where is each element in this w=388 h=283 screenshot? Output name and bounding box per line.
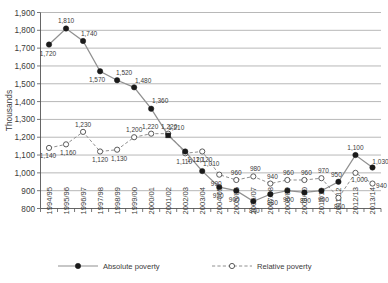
data-label-absolute-poverty: 1,480	[135, 77, 152, 84]
data-label-relative-poverty: 1,140	[40, 152, 57, 159]
data-label-absolute-poverty: 890	[300, 197, 311, 204]
data-label-absolute-poverty: 920	[213, 192, 224, 199]
data-point-relative-poverty	[370, 181, 375, 186]
data-label-absolute-poverty: 1,360	[152, 97, 169, 104]
y-axis-tick-label: 1,300	[15, 115, 36, 124]
poverty-line-chart: 8009001,0001,1001,2001,3001,4001,5001,60…	[0, 0, 388, 283]
data-point-absolute-poverty	[336, 179, 341, 184]
data-point-absolute-poverty	[63, 26, 68, 31]
data-label-relative-poverty: 1,160	[60, 149, 77, 156]
data-point-relative-poverty	[97, 149, 102, 154]
y-axis-tick-label: 800	[21, 205, 35, 214]
data-label-relative-poverty: 1,120	[92, 156, 109, 163]
x-axis-tick-label: 1997/98	[96, 187, 105, 214]
data-point-relative-poverty	[149, 131, 154, 136]
data-label-relative-poverty: 1,120	[196, 156, 213, 163]
data-label-relative-poverty: 980	[250, 165, 261, 172]
data-point-absolute-poverty	[353, 152, 358, 157]
data-label-relative-poverty: 970	[318, 167, 329, 174]
y-axis-tick-label: 1,900	[15, 9, 36, 18]
data-point-absolute-poverty	[234, 188, 239, 193]
legend-marker-absolute-poverty	[75, 263, 80, 268]
data-label-relative-poverty: 990	[211, 180, 222, 187]
data-point-relative-poverty	[268, 181, 273, 186]
x-axis-tick-label: 1995/96	[62, 187, 71, 214]
data-point-absolute-poverty	[148, 106, 153, 111]
data-point-relative-poverty	[132, 135, 137, 140]
x-axis-tick-label: 1998/99	[113, 187, 122, 214]
data-point-absolute-poverty	[131, 85, 136, 90]
y-axis-tick-label: 1,100	[15, 151, 36, 160]
data-point-relative-poverty	[302, 177, 307, 182]
data-label-relative-poverty: 1,000	[351, 176, 368, 183]
data-point-absolute-poverty	[114, 78, 119, 83]
data-label-absolute-poverty: 1,740	[81, 30, 98, 37]
data-point-relative-poverty	[353, 170, 358, 175]
data-point-relative-poverty	[115, 147, 120, 152]
x-axis-tick-label: 2012/13	[351, 187, 360, 214]
x-axis-tick-label: 2003/04	[198, 187, 207, 214]
data-label-absolute-poverty: 1,030	[372, 158, 388, 165]
data-label-relative-poverty: 960	[283, 169, 294, 176]
data-point-absolute-poverty	[370, 165, 375, 170]
data-label-absolute-poverty: 1,720	[40, 50, 57, 57]
data-point-absolute-poverty	[319, 188, 324, 193]
data-point-absolute-poverty	[183, 149, 188, 154]
data-point-relative-poverty	[46, 145, 51, 150]
data-label-relative-poverty: 960	[301, 169, 312, 176]
x-axis-tick-label: 1996/97	[79, 187, 88, 214]
data-label-absolute-poverty: 1,520	[116, 69, 133, 76]
chart-container: 8009001,0001,1001,2001,3001,4001,5001,60…	[0, 0, 388, 283]
data-label-absolute-poverty: 950	[331, 171, 342, 178]
data-label-absolute-poverty: 1,570	[89, 76, 106, 83]
data-label-relative-poverty: 1,230	[75, 121, 92, 128]
data-point-relative-poverty	[217, 172, 222, 177]
y-axis-tick-label: 1,700	[15, 44, 36, 53]
x-axis-tick-label: 1994/95	[45, 187, 54, 214]
legend-label-relative-poverty: Relative poverty	[257, 262, 312, 271]
data-label-relative-poverty: 940	[376, 182, 387, 189]
x-axis-tick-label: 2001/02	[164, 187, 173, 214]
data-label-relative-poverty: 1,220	[142, 123, 159, 130]
data-label-relative-poverty: 1,110	[176, 158, 192, 165]
data-label-absolute-poverty: 1,100	[347, 144, 364, 151]
y-axis-tick-label: 1,500	[15, 80, 36, 89]
data-label-relative-poverty: 940	[267, 173, 278, 180]
data-label-relative-poverty: 960	[231, 169, 242, 176]
data-point-absolute-poverty	[200, 168, 205, 173]
legend-label-absolute-poverty: Absolute poverty	[103, 262, 160, 271]
data-point-absolute-poverty	[268, 192, 273, 197]
y-axis-tick-label: 1,800	[15, 26, 36, 35]
data-point-relative-poverty	[200, 149, 205, 154]
data-point-relative-poverty	[319, 176, 324, 181]
x-axis-tick-label: 2013/14	[368, 187, 377, 214]
y-axis-tick-label: 1,400	[15, 98, 36, 107]
data-label-relative-poverty: 1,220	[161, 123, 178, 130]
data-point-absolute-poverty	[285, 188, 290, 193]
data-point-absolute-poverty	[97, 69, 102, 74]
data-label-absolute-poverty: 900	[318, 196, 329, 203]
data-label-absolute-poverty: 900	[283, 196, 294, 203]
data-point-absolute-poverty	[46, 42, 51, 47]
y-axis-tick-label: 1,000	[15, 169, 36, 178]
data-label-absolute-poverty: 880	[267, 199, 278, 206]
data-point-absolute-poverty	[80, 38, 85, 43]
y-axis-tick-label: 1,600	[15, 62, 36, 71]
data-point-absolute-poverty	[166, 133, 171, 138]
series-line-absolute-poverty	[49, 29, 372, 202]
data-label-relative-poverty: 860	[334, 203, 345, 210]
y-axis-title: Thousands	[4, 90, 14, 131]
data-label-absolute-poverty: 840	[249, 207, 260, 214]
data-point-relative-poverty	[336, 195, 341, 200]
x-axis-tick-label: 2000/01	[147, 187, 156, 214]
data-label-absolute-poverty: 1,810	[58, 17, 75, 24]
data-point-relative-poverty	[285, 177, 290, 182]
y-axis-tick-label: 1,200	[15, 133, 36, 142]
data-label-relative-poverty: 1,130	[111, 155, 128, 162]
x-axis-tick-label: 1999/00	[130, 187, 139, 214]
data-point-absolute-poverty	[251, 199, 256, 204]
data-point-relative-poverty	[234, 177, 239, 182]
data-label-relative-poverty: 1,200	[126, 126, 143, 133]
data-point-relative-poverty	[63, 142, 68, 147]
x-axis-tick-label: 2002/03	[181, 187, 190, 214]
